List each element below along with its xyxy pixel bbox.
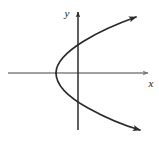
coordinate-plane-svg: y x	[0, 0, 159, 143]
parabola-lower-branch	[56, 73, 140, 130]
math-figure: y x	[0, 0, 159, 143]
y-axis-label: y	[64, 7, 70, 19]
parabola-upper-branch	[56, 17, 136, 73]
x-axis-label: x	[148, 77, 154, 89]
